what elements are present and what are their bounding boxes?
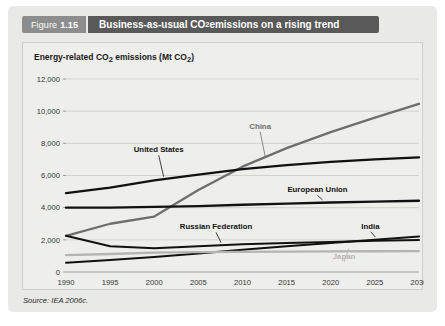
y-axis-tick-labels: 02,0004,0006,0008,00010,00012,000 — [37, 75, 60, 277]
series-label-united-states: United States — [134, 145, 184, 154]
figure-title-text-part2: emissions on a rising trend — [209, 19, 339, 30]
x-tick-label: 2030 — [411, 278, 424, 287]
series-line-russian-federation — [66, 236, 419, 248]
gridlines — [63, 79, 419, 272]
x-axis-tick-labels: 199019952000200520102015202020252030 — [58, 278, 424, 287]
x-tick-label: 2005 — [190, 278, 207, 287]
series-label-china: China — [249, 122, 271, 131]
series-label-japan: Japan — [333, 252, 356, 261]
series-leader-line — [216, 232, 221, 242]
y-tick-label: 4,000 — [41, 203, 60, 212]
y-tick-label: 8,000 — [41, 139, 60, 148]
figure-number-prefix: Figure — [31, 20, 57, 30]
y-tick-label: 0 — [56, 268, 60, 277]
series-leader-line — [370, 232, 375, 238]
x-tick-label: 1990 — [58, 278, 75, 287]
figure-number-value: 1.15 — [60, 20, 78, 30]
y-tick-label: 6,000 — [41, 171, 60, 180]
figure-header: Figure1.15 Business-as-usual CO2 emissio… — [22, 16, 379, 33]
x-tick-label: 1995 — [102, 278, 119, 287]
x-tick-label: 2025 — [366, 278, 383, 287]
plot-area: 02,0004,0006,0008,00010,00012,000 199019… — [23, 43, 424, 291]
y-tick-label: 10,000 — [37, 107, 60, 116]
figure-title-text-part1: Business-as-usual CO — [99, 19, 205, 30]
y-tick-label: 12,000 — [37, 75, 60, 84]
source-note: Source: IEA 2006c. — [23, 296, 88, 305]
figure-title-bar: Business-as-usual CO2 emissions on a ris… — [88, 16, 379, 33]
series-label-european-union: European Union — [287, 185, 347, 194]
series-leader-line — [260, 132, 265, 156]
y-tick-label: 2,000 — [41, 236, 60, 245]
line-chart-svg: 02,0004,0006,0008,00010,00012,000 199019… — [23, 43, 424, 291]
series-leader-line — [318, 195, 323, 199]
figure-panel: Figure1.15 Business-as-usual CO2 emissio… — [8, 6, 437, 312]
series-label-india: India — [361, 222, 380, 231]
figure-number-tag: Figure1.15 — [22, 16, 86, 33]
series-line-european-union — [66, 201, 419, 208]
x-tick-label: 2010 — [234, 278, 251, 287]
data-series — [66, 104, 419, 263]
series-leader-line — [159, 155, 164, 177]
series-line-japan — [66, 251, 419, 255]
x-tick-label: 2000 — [146, 278, 163, 287]
x-tick-label: 2015 — [278, 278, 295, 287]
series-label-russian-federation: Russian Federation — [180, 222, 253, 231]
chart-card: Energy-related CO2 emissions (Mt CO2) 02… — [22, 42, 423, 290]
x-tick-label: 2020 — [322, 278, 339, 287]
